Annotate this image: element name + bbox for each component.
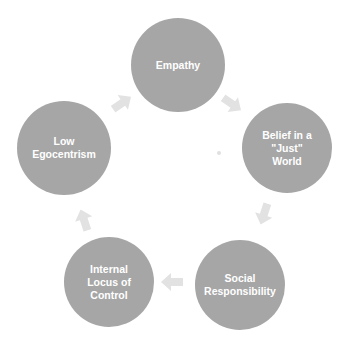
node-empathy: Empathy xyxy=(131,18,225,112)
node-social-responsibility: Social Responsibility xyxy=(195,240,285,330)
node-empathy-label: Empathy xyxy=(156,59,200,72)
node-belief-just-world: Belief in a "Just" World xyxy=(242,103,332,193)
node-low-egocentrism: Low Egocentrism xyxy=(17,101,111,195)
cycle-diagram: Empathy Belief in a "Just" World Social … xyxy=(0,0,343,342)
node-internal-label: Internal Locus of Control xyxy=(87,263,131,302)
node-social-label: Social Responsibility xyxy=(204,272,276,298)
node-internal-locus: Internal Locus of Control xyxy=(64,237,154,327)
node-low-ego-label: Low Egocentrism xyxy=(32,135,96,161)
center-dot xyxy=(217,151,221,155)
node-belief-label: Belief in a "Just" World xyxy=(262,129,312,168)
